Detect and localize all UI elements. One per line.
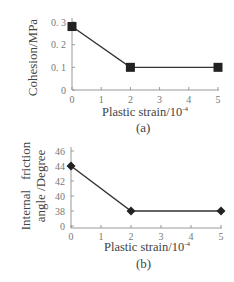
chart-b-ylabel: Internal friction angle /Degree (18, 131, 48, 241)
chart-b-ylabel-line2: angle /Degree (33, 131, 48, 241)
y-tick-label: 40 (55, 191, 65, 202)
chart-b-xlabel-exponent: -4 (184, 240, 190, 248)
data-point-square (214, 63, 223, 72)
y-tick-label: 42 (55, 176, 65, 187)
y-tick-label: 44 (55, 161, 65, 172)
data-line (71, 166, 221, 211)
chart-b: 01234503840424446 Internal friction angl… (0, 141, 234, 282)
chart-b-xlabel-text: Plastic strain/10 (104, 240, 184, 254)
data-point-diamond (217, 207, 226, 216)
chart-a-ylabel: Cohesion/MPa (25, 8, 40, 108)
x-tick-label: 4 (186, 94, 191, 105)
chart-a-xlabel-text: Plastic strain/10 (102, 105, 182, 119)
y-tick-label: 0. 3 (51, 17, 66, 28)
data-line (72, 27, 218, 68)
data-point-square (126, 63, 135, 72)
chart-a-caption: (a) (136, 120, 150, 136)
x-tick-label: 5 (219, 231, 224, 242)
y-tick-label: 46 (55, 146, 65, 157)
y-tick-label: 0 (60, 221, 65, 232)
chart-b-caption: (b) (136, 256, 151, 272)
x-tick-label: 2 (128, 94, 133, 105)
chart-a: 01234500. 10. 20. 3 Cohesion/MPa Plastic… (0, 0, 234, 141)
x-tick-label: 0 (69, 231, 74, 242)
x-tick-label: 5 (216, 94, 221, 105)
data-point-square (68, 22, 77, 31)
x-tick-label: 0 (70, 94, 75, 105)
y-tick-label: 38 (55, 206, 65, 217)
y-tick-label: 0. 1 (51, 62, 66, 73)
chart-b-ylabel-line1: Internal friction (18, 131, 33, 241)
y-tick-label: 0 (61, 85, 66, 96)
x-tick-label: 3 (157, 94, 162, 105)
x-tick-label: 1 (99, 231, 104, 242)
x-tick-label: 1 (99, 94, 104, 105)
y-tick-label: 0. 2 (51, 39, 66, 50)
chart-b-xlabel: Plastic strain/10-4 (104, 240, 190, 255)
chart-a-xlabel-exponent: -4 (182, 105, 188, 113)
chart-a-xlabel: Plastic strain/10-4 (102, 105, 188, 120)
